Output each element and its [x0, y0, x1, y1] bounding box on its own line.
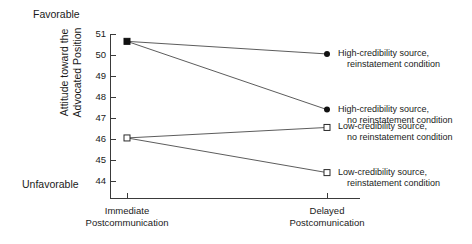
y-tick-label-44: 44 — [84, 175, 106, 186]
x-tick-label-1-line-2: Postcomunication — [262, 217, 392, 229]
y-tick-label-49: 49 — [84, 70, 106, 81]
x-tick-label-0-line-2: Postcommunication — [62, 217, 192, 229]
x-tick-label-1: DelayedPostcomunication — [262, 205, 392, 229]
legend-entry-2: Low-credibility source,no reinstatement … — [338, 121, 470, 143]
marker-end-series-3 — [324, 170, 330, 176]
legend-label-3-line-1: Low-credibility source, — [338, 167, 427, 177]
legend-entry-0: High-credibility source,reinstatement co… — [338, 48, 470, 70]
y-tick-48 — [111, 97, 116, 98]
marker-end-series-1 — [324, 107, 330, 113]
y-tick-44 — [111, 181, 116, 182]
legend-label-3-line-2: reinstatement condition — [338, 178, 470, 189]
y-axis-line — [110, 34, 111, 199]
series-line-3 — [127, 138, 327, 173]
chart-figure: Favorable Unfavorable Attitude toward th… — [0, 0, 472, 244]
marker-end-series-0 — [324, 51, 330, 57]
legend-entry-3: Low-credibility source,reinstatement con… — [338, 167, 470, 189]
y-tick-51 — [111, 34, 116, 35]
y-tick-label-47: 47 — [84, 112, 106, 123]
x-tick-label-0: ImmediatePostcommunication — [62, 205, 192, 229]
y-tick-46 — [111, 139, 116, 140]
y-axis-title: Attitude toward the Advocated Position — [58, 0, 83, 153]
y-tick-label-45: 45 — [84, 154, 106, 165]
y-axis-title-line-2: Advocated Position — [70, 0, 83, 153]
series-line-2 — [127, 127, 327, 138]
legend-label-0-line-1: High-credibility source, — [338, 48, 429, 58]
y-axis-title-line-1: Attitude toward the — [58, 0, 71, 153]
legend-label-0-line-2: reinstatement condition — [338, 59, 470, 70]
legend-label-2-line-1: Low-credibility source, — [338, 121, 427, 131]
y-tick-49 — [111, 76, 116, 77]
y-tick-label-51: 51 — [84, 28, 106, 39]
y-tick-50 — [111, 55, 116, 56]
legend-label-2-line-2: no reinstatement condition — [338, 132, 470, 143]
marker-end-series-2 — [324, 124, 330, 130]
x-axis-line — [110, 198, 360, 199]
series-line-1 — [127, 41, 327, 109]
y-tick-45 — [111, 160, 116, 161]
y-tick-label-48: 48 — [84, 91, 106, 102]
series-line-0 — [127, 41, 327, 54]
y-tick-47 — [111, 118, 116, 119]
legend-label-1-line-1: High-credibility source, — [338, 104, 429, 114]
x-tick-0 — [127, 193, 128, 198]
axis-anchor-unfavorable: Unfavorable — [22, 178, 79, 190]
marker-start-low-credibility — [124, 135, 130, 141]
y-tick-label-46: 46 — [84, 133, 106, 144]
marker-start-high-credibility — [124, 38, 130, 44]
y-tick-label-50: 50 — [84, 49, 106, 60]
x-tick-1 — [327, 193, 328, 198]
x-tick-label-1-line-1: Delayed — [262, 205, 392, 217]
x-tick-label-0-line-1: Immediate — [62, 205, 192, 217]
